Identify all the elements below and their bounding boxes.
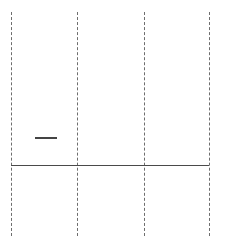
dash-marker — [35, 137, 57, 139]
gridline-3 — [144, 12, 145, 236]
baseline — [11, 165, 209, 166]
gridline-2 — [77, 12, 78, 236]
gridline-1 — [11, 12, 12, 236]
gridline-4 — [209, 12, 210, 236]
diagram-canvas — [0, 0, 243, 240]
